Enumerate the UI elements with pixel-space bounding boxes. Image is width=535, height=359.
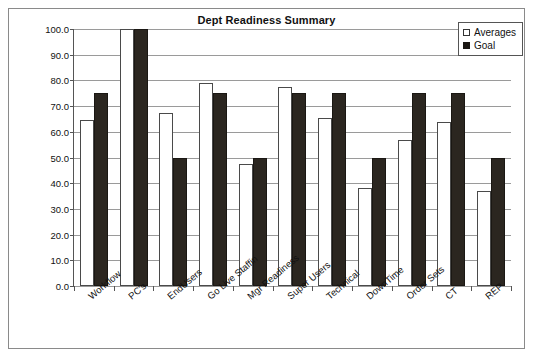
x-tick-mark <box>153 286 154 291</box>
bar-averages <box>477 191 491 286</box>
filled-square-icon <box>463 42 470 49</box>
y-tick-label: 20.0 <box>51 229 70 240</box>
bar-group <box>193 29 233 286</box>
y-tick-label: 80.0 <box>51 75 70 86</box>
y-tick-label: 50.0 <box>51 152 70 163</box>
x-tick-mark <box>273 286 274 291</box>
chart-screenshot: Dept Readiness Summary 100.090.080.070.0… <box>0 0 535 359</box>
y-tick-label: 90.0 <box>51 49 70 60</box>
x-tick-mark <box>114 286 115 291</box>
bar-averages <box>159 113 173 286</box>
bar-group <box>432 29 472 286</box>
bar-group <box>114 29 154 286</box>
x-tick-mark <box>74 286 75 291</box>
bar-averages <box>398 140 412 286</box>
y-tick-label: 0.0 <box>56 281 69 292</box>
hollow-square-icon <box>463 29 470 36</box>
bar-group <box>471 29 511 286</box>
y-tick-label: 100.0 <box>45 24 69 35</box>
bar-goal <box>491 158 505 287</box>
y-tick-label: 70.0 <box>51 101 70 112</box>
bar-group <box>233 29 273 286</box>
legend-item: Goal <box>463 39 516 52</box>
x-tick-mark <box>193 286 194 291</box>
x-tick-mark <box>432 286 433 291</box>
bar-goal <box>173 158 187 287</box>
x-tick-mark <box>392 286 393 291</box>
bar-averages <box>199 83 213 286</box>
bar-averages <box>120 29 134 286</box>
bar-group <box>352 29 392 286</box>
x-tick-mark <box>352 286 353 291</box>
bar-goal <box>372 158 386 287</box>
x-tick-mark <box>511 286 512 291</box>
chart-legend: AveragesGoal <box>458 22 523 56</box>
bar-goal <box>94 93 108 286</box>
x-tick-mark <box>312 286 313 291</box>
bar-group <box>312 29 352 286</box>
bar-goal <box>253 158 267 287</box>
bar-group <box>392 29 432 286</box>
bar-goal <box>412 93 426 286</box>
x-tick-label: CT <box>443 285 460 302</box>
legend-item: Averages <box>463 26 516 39</box>
bar-averages <box>80 120 94 286</box>
y-tick-label: 40.0 <box>51 178 70 189</box>
legend-item-label: Averages <box>474 26 516 39</box>
bars-layer <box>74 29 511 286</box>
bar-goal <box>134 29 148 286</box>
legend-item-label: Goal <box>474 39 495 52</box>
x-tick-mark <box>233 286 234 291</box>
bar-group <box>153 29 193 286</box>
y-tick-label: 30.0 <box>51 203 70 214</box>
chart-frame: Dept Readiness Summary 100.090.080.070.0… <box>8 8 525 349</box>
bar-averages <box>358 188 372 286</box>
bar-goal <box>332 93 346 286</box>
chart-title: Dept Readiness Summary <box>9 14 524 26</box>
plot-area: 100.090.080.070.060.050.040.030.020.010.… <box>73 29 511 287</box>
bar-goal <box>213 93 227 286</box>
bar-goal <box>451 93 465 286</box>
bar-group <box>74 29 114 286</box>
y-tick-label: 60.0 <box>51 126 70 137</box>
x-tick-mark <box>471 286 472 291</box>
bar-averages <box>437 122 451 286</box>
bar-group <box>273 29 313 286</box>
y-tick-label: 10.0 <box>51 255 70 266</box>
